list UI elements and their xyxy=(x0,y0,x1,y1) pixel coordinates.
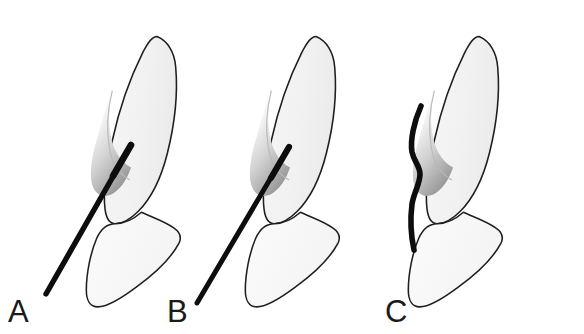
panel-c: C xyxy=(385,36,502,329)
figure-container: A B C xyxy=(0,0,584,334)
tooth-b xyxy=(245,36,339,306)
tooth-a xyxy=(86,36,180,306)
panel-b: B xyxy=(167,36,339,329)
panel-a: A xyxy=(8,36,180,329)
panel-label-b: B xyxy=(167,294,188,329)
dental-injection-figure: A B C xyxy=(0,0,584,334)
panel-label-c: C xyxy=(385,294,407,329)
panel-label-a: A xyxy=(8,294,29,329)
